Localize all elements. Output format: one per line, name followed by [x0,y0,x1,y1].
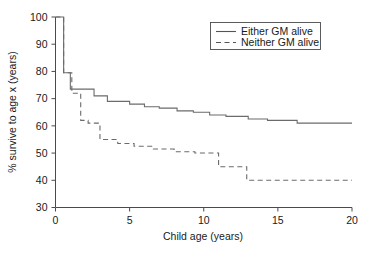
x-tick-label: 5 [127,214,133,226]
y-tick-group: 30405060708090100 [30,11,56,214]
y-tick-label: 90 [36,38,48,50]
x-tick-group: 05101520 [53,208,358,226]
y-tick-label: 50 [36,147,48,159]
legend-label-neither: Neither GM alive [241,36,319,48]
survival-curve-figure: 30405060708090100 05101520 Either GM ali… [0,0,370,267]
x-tick-label: 0 [53,214,59,226]
x-tick-label: 15 [272,214,284,226]
x-tick-label: 20 [346,214,358,226]
y-axis-title: % survive to age x (years) [6,51,18,172]
y-tick-label: 80 [36,65,48,77]
legend: Either GM alive Neither GM alive [211,23,321,50]
y-tick-label: 100 [30,11,48,23]
y-tick-label: 60 [36,120,48,132]
y-tick-label: 30 [36,201,48,213]
chart-canvas: 30405060708090100 05101520 Either GM ali… [0,0,370,267]
y-tick-label: 40 [36,174,48,186]
y-tick-label: 70 [36,92,48,104]
x-axis-title: Child age (years) [163,230,243,242]
x-tick-label: 10 [198,214,210,226]
